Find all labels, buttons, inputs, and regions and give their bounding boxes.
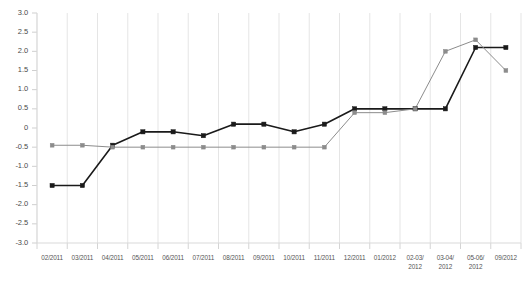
data-point-series-dark [474, 45, 478, 49]
data-point-series-gray [383, 111, 387, 115]
x-axis-tick-label: 05-06/ 2012 [461, 254, 491, 271]
y-axis-tick-label: 3.0 [2, 9, 28, 17]
x-axis-tick-label: 02-03/ 2012 [400, 254, 430, 271]
y-axis-tick-label: -2.5 [2, 219, 28, 227]
y-axis-tick-label: -3.0 [2, 239, 28, 247]
data-point-series-gray [80, 143, 84, 147]
y-axis-tick-label: 2.5 [2, 28, 28, 36]
x-axis-tick-label: 06/2011 [158, 254, 188, 263]
x-axis-tick-label: 08/2011 [219, 254, 249, 263]
data-point-series-gray [353, 111, 357, 115]
x-axis-tick-label: 09/2012 [491, 254, 521, 263]
data-point-series-gray [443, 49, 447, 53]
y-axis-ticks [32, 13, 521, 249]
data-point-series-dark [383, 107, 387, 111]
data-point-series-gray [111, 145, 115, 149]
x-axis-tick-label: 03/2011 [67, 254, 97, 263]
data-point-series-gray [201, 145, 205, 149]
data-point-series-dark [353, 107, 357, 111]
y-axis-tick-label: -0.5 [2, 143, 28, 151]
data-point-series-gray [413, 107, 417, 111]
data-point-series-dark [443, 107, 447, 111]
data-point-series-dark [504, 45, 508, 49]
data-point-series-dark [232, 122, 236, 126]
data-point-series-gray [504, 69, 508, 73]
data-point-series-dark [201, 134, 205, 138]
y-axis-tick-label: -1.5 [2, 181, 28, 189]
data-point-series-gray [50, 143, 54, 147]
data-point-series-dark [141, 130, 145, 134]
data-point-series-dark [50, 183, 54, 187]
data-point-series-dark [262, 122, 266, 126]
x-axis-tick-label: 01/2012 [370, 254, 400, 263]
x-axis-tick-label: 02/2011 [37, 254, 67, 263]
x-axis-tick-label: 04/2011 [98, 254, 128, 263]
data-point-series-dark [322, 122, 326, 126]
line-chart: 3.02.52.01.51.00.50-0.5-1.0-1.5-2.0-2.5-… [0, 0, 530, 289]
data-point-series-gray [474, 38, 478, 42]
x-axis-tick-label: 09/2011 [249, 254, 279, 263]
y-axis-tick-label: -1.0 [2, 162, 28, 170]
x-axis-tick-label: 07/2011 [188, 254, 218, 263]
x-axis-tick-label: 03-04/ 2012 [430, 254, 460, 271]
data-point-series-gray [171, 145, 175, 149]
y-axis-tick-label: 1.5 [2, 66, 28, 74]
y-axis-tick-label: 1.0 [2, 85, 28, 93]
x-axis-tick-label: 05/2011 [128, 254, 158, 263]
x-axis-tick-label: 10/2011 [279, 254, 309, 263]
data-point-series-gray [141, 145, 145, 149]
data-point-series-dark [80, 183, 84, 187]
x-axis-tick-label: 12/2011 [340, 254, 370, 263]
y-axis-tick-label: 0.5 [2, 104, 28, 112]
data-point-series-dark [292, 130, 296, 134]
x-axis-tick-label: 11/2011 [309, 254, 339, 263]
data-point-series-gray [262, 145, 266, 149]
y-axis-tick-label: 2.0 [2, 47, 28, 55]
data-point-series-gray [292, 145, 296, 149]
data-point-series-dark [171, 130, 175, 134]
y-axis-tick-label: 0 [2, 124, 28, 132]
data-point-series-gray [322, 145, 326, 149]
plot-area [0, 0, 530, 289]
y-axis-tick-label: -2.0 [2, 200, 28, 208]
data-point-series-gray [232, 145, 236, 149]
